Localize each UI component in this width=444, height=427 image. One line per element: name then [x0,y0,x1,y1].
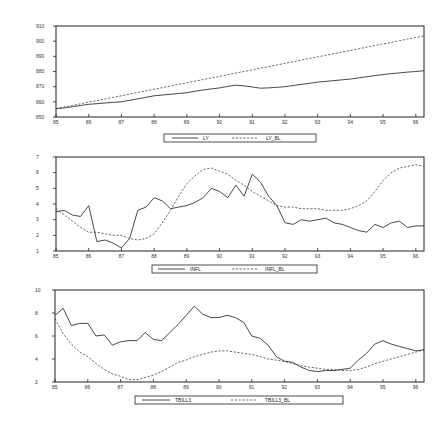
x-tick-label: 87 [118,384,124,390]
x-tick-label: 96 [413,253,419,259]
x-tick-label: 87 [118,119,124,125]
legend-ly: LY LY_BL [164,134,316,142]
x-tick-label: 95 [380,384,386,390]
y-tick-label: 4 [36,201,39,207]
y-tick-label: 1 [36,248,39,254]
x-tick-label: 93 [314,384,320,390]
chart-figure: 8508608708808909009108586878889909192939… [0,0,444,427]
y-tick-label: 880 [36,68,45,74]
x-tick-label: 93 [315,253,321,259]
x-tick-label: 91 [249,384,255,390]
x-tick-label: 93 [315,119,321,125]
series-line-infl [56,174,424,248]
y-tick-label: 890 [36,53,45,59]
x-tick-label: 94 [347,253,353,259]
y-tick-label: 4 [35,356,38,362]
series-line-infl-bl [56,165,424,240]
legend-label-tbill3: TBILL3 [175,397,191,403]
x-tick-label: 90 [217,119,223,125]
chart-panel-ly: 8508608708808909009108586878889909192939… [36,23,424,125]
x-tick-label: 88 [150,384,156,390]
x-tick-label: 92 [282,119,288,125]
y-tick-label: 850 [36,114,45,120]
legend-label-ly-bl: LY_BL [266,135,281,141]
y-tick-label: 8 [35,310,38,316]
y-tick-label: 2 [35,379,38,385]
x-tick-label: 85 [53,253,59,259]
x-tick-label: 86 [85,384,91,390]
x-tick-label: 86 [86,253,92,259]
x-tick-label: 96 [413,384,419,390]
y-tick-label: 7 [36,154,39,160]
x-tick-label: 86 [86,119,92,125]
x-tick-label: 89 [184,119,190,125]
y-tick-label: 10 [35,287,41,293]
x-tick-label: 96 [413,119,419,125]
x-tick-label: 88 [151,253,157,259]
chart-panel-infl: 1234567858687888990919293949596 [36,154,424,259]
series-line-tbill3-bl [55,319,424,380]
x-tick-label: 94 [347,119,353,125]
plot-frame [55,290,424,382]
x-tick-label: 91 [249,119,255,125]
legend-label-tbill3-bl: TBILL3_BL [265,397,290,403]
x-tick-label: 95 [380,119,386,125]
x-tick-label: 92 [282,253,288,259]
x-tick-label: 87 [118,253,124,259]
y-tick-label: 6 [36,169,39,175]
legend-tbill3: TBILL3 TBILL3_BL [135,396,343,404]
y-tick-label: 3 [36,216,39,222]
x-tick-label: 94 [347,384,353,390]
y-tick-label: 6 [35,333,38,339]
y-tick-label: 870 [36,83,45,89]
x-tick-label: 91 [249,253,255,259]
x-tick-label: 90 [217,253,223,259]
plot-frame [56,157,424,251]
x-tick-label: 88 [151,119,157,125]
y-tick-label: 910 [36,23,45,29]
plot-frame [56,26,424,117]
legend-infl: INFL INFL_BL [152,265,317,273]
y-tick-label: 900 [36,38,45,44]
y-tick-label: 2 [36,232,39,238]
legend-label-infl: INFL [190,266,201,272]
series-line-tbill3 [55,306,424,372]
x-tick-label: 92 [282,384,288,390]
x-tick-label: 89 [183,384,189,390]
x-tick-label: 89 [184,253,190,259]
y-tick-label: 5 [36,185,39,191]
series-line-ly [56,71,424,109]
legend-label-infl-bl: INFL_BL [265,266,285,272]
x-tick-label: 85 [53,119,59,125]
series-line-ly-bl [56,36,424,109]
legend-label-ly: LY [203,135,209,141]
x-tick-label: 85 [52,384,58,390]
x-tick-label: 95 [380,253,386,259]
y-tick-label: 860 [36,99,45,105]
chart-panel-tbill3: 246810858687888990919293949596 [35,287,424,390]
x-tick-label: 90 [216,384,222,390]
